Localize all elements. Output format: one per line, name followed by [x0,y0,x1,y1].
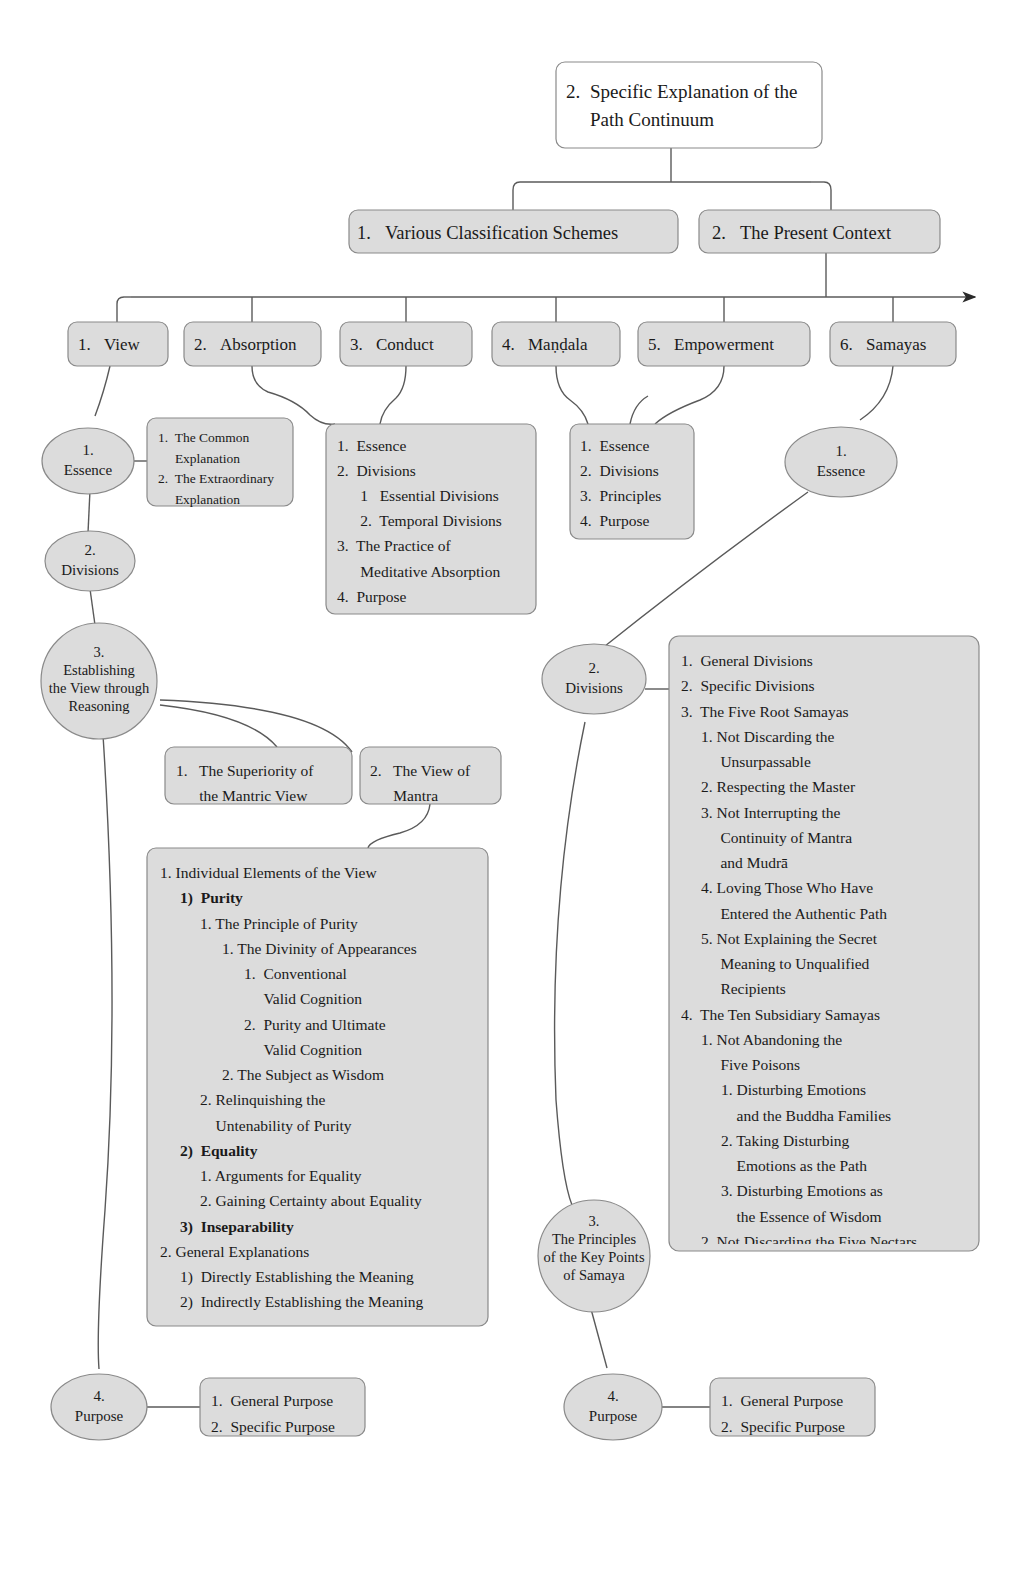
samaya-detail-line-11: 5. Not Explaining the Secret [681,926,973,951]
category-4-label: 5.Empowerment [648,334,810,356]
samaya-detail-line-23: 2. Not Discarding the Five Nectars [681,1229,973,1244]
view-detail-line-10: Untenability of Purity [160,1113,480,1138]
samaya-detail-line-20: Emotions as the Path [681,1153,973,1178]
samaya-detail-line-13: Recipients [681,976,973,1001]
absorption-conduct-detail-label: 1. Essence 2. Divisions 1 Essential Divi… [337,433,532,609]
category-1-text: Absorption [220,335,297,354]
category-1-number: 2. [194,334,220,356]
level2-item-0-label: 1.Various Classification Schemes [357,221,672,245]
samaya-detail-line-17: 1. Disturbing Emotions [681,1077,973,1102]
view-detail-line-17: 2) Indirectly Establishing the Meaning [160,1289,480,1314]
category-5-number: 6. [840,334,866,356]
category-2-text: Conduct [376,335,434,354]
view-detail-line-9: 2. Relinquishing the [160,1087,480,1112]
view-detail-line-8: 2. The Subject as Wisdom [160,1062,480,1087]
view-reasoning-label: 3. Establishing the View through Reasoni… [31,643,167,716]
view-detail-line-14: 3) Inseparability [160,1214,480,1239]
view-detail-line-6: 2. Purity and Ultimate [160,1012,480,1037]
samaya-detail-line-0: 1. General Divisions [681,648,973,673]
samaya-detail-line-22: the Essence of Wisdom [681,1204,973,1229]
category-0-text: View [104,335,140,354]
category-3-number: 4. [502,334,528,356]
samaya-detail-line-16: Five Poisons [681,1052,973,1077]
view-detail-line-5: Valid Cognition [160,986,480,1011]
category-4-text: Empowerment [674,335,774,354]
samaya-divisions-detail-list: 1. General Divisions2. Specific Division… [681,648,973,1244]
category-2-label: 3.Conduct [350,334,472,356]
samaya-detail-line-2: 3. The Five Root Samayas [681,699,973,724]
root-node-label: 2.Specific Explanation of the Path Conti… [566,78,816,133]
view-detail-line-3: 1. The Divinity of Appearances [160,936,480,961]
category-0-number: 1. [78,334,104,356]
samaya-detail-line-14: 4. The Ten Subsidiary Samayas [681,1002,973,1027]
view-detail-line-12: 1. Arguments for Equality [160,1163,480,1188]
view-detail-line-13: 2. Gaining Certainty about Equality [160,1188,480,1213]
view-detail-list: 1. Individual Elements of the View1) Pur… [160,860,480,1315]
root-text: Specific Explanation of the Path Continu… [590,78,804,133]
samaya-detail-line-7: Continuity of Mantra [681,825,973,850]
samaya-detail-line-12: Meaning to Unqualified [681,951,973,976]
samaya-detail-line-9: 4. Loving Those Who Have [681,875,973,900]
samaya-detail-line-18: and the Buddha Families [681,1103,973,1128]
level2-item-1-label: 2.The Present Context [712,221,940,245]
category-1-label: 2.Absorption [194,334,321,356]
samaya-purpose-detail-label: 1. General Purpose 2. Specific Purpose [721,1388,871,1441]
category-4-number: 5. [648,334,674,356]
view-detail-line-11: 2) Equality [160,1138,480,1163]
level2-item-1-number: 2. [712,221,740,245]
view-detail-line-4: 1. Conventional [160,961,480,986]
view-purpose-detail-label: 1. General Purpose 2. Specific Purpose [211,1388,361,1441]
level2-item-0-text: Various Classification Schemes [385,223,618,243]
level2-item-1-text: The Present Context [740,223,891,243]
view-detail-line-1: 1) Purity [160,885,480,910]
category-5-label: 6.Samayas [840,334,956,356]
samaya-detail-line-3: 1. Not Discarding the [681,724,973,749]
view-detail-line-0: 1. Individual Elements of the View [160,860,480,885]
samaya-purpose-label: 4. Purpose [569,1387,657,1426]
samaya-essence-label: 1. Essence [797,442,885,481]
view-of-mantra-label: 2. The View of Mantra [370,758,496,808]
level2-item-0-number: 1. [357,221,385,245]
view-purpose-label: 4. Purpose [55,1387,143,1426]
superiority-mantric-view-label: 1. The Superiority of the Mantric View [176,758,346,808]
samaya-principles-label: 3. The Principles of the Key Points of S… [526,1212,662,1285]
view-detail-line-15: 2. General Explanations [160,1239,480,1264]
mandala-empowerment-detail-label: 1. Essence 2. Divisions 3. Principles 4.… [580,433,692,533]
category-2-number: 3. [350,334,376,356]
category-5-text: Samayas [866,335,926,354]
view-essence-detail-label: 1. The Common Explanation 2. The Extraor… [158,428,286,510]
samaya-detail-line-21: 3. Disturbing Emotions as [681,1178,973,1203]
samaya-detail-line-15: 1. Not Abandoning the [681,1027,973,1052]
view-detail-line-16: 1) Directly Establishing the Meaning [160,1264,480,1289]
samaya-detail-line-19: 2. Taking Disturbing [681,1128,973,1153]
samaya-divisions-label: 2. Divisions [550,659,638,698]
samaya-detail-line-1: 2. Specific Divisions [681,673,973,698]
category-3-text: Maṇḍala [528,335,587,354]
samaya-detail-line-10: Entered the Authentic Path [681,901,973,926]
samaya-detail-line-8: and Mudrā [681,850,973,875]
samaya-detail-line-6: 3. Not Interrupting the [681,800,973,825]
category-3-label: 4.Maṇḍala [502,334,620,356]
root-number: 2. [566,78,590,106]
view-detail-line-7: Valid Cognition [160,1037,480,1062]
samaya-detail-line-4: Unsurpassable [681,749,973,774]
view-detail-line-2: 1. The Principle of Purity [160,911,480,936]
view-divisions-label: 2. Divisions [46,541,134,580]
samaya-detail-line-5: 2. Respecting the Master [681,774,973,799]
category-0-label: 1.View [78,334,168,356]
view-essence-label: 1. Essence [44,441,132,480]
